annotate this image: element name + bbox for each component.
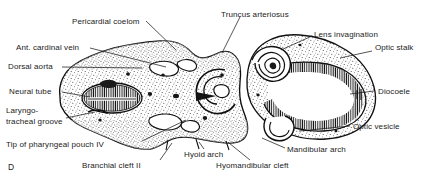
label-lens-invagination: Lens invagination: [314, 30, 378, 40]
optic-vesicle-structure: [264, 116, 294, 141]
label-optic-vesicle: Optic vesicle: [353, 122, 400, 132]
label-hyomandibular-cleft: Hyomandibular cleft: [216, 161, 289, 171]
label-tip-of-pharyngeal-pouch-iv: Tip of pharyngeal pouch IV: [6, 140, 104, 150]
label-hyoid-arch: Hyoid arch: [184, 150, 223, 160]
label-optic-stalk: Optic stalk: [375, 43, 413, 53]
label-dorsal-aorta: Dorsal aorta: [8, 62, 53, 72]
label-truncus-arteriosus: Truncus arteriosus: [221, 10, 289, 20]
label-mandibular-arch: Mandibular arch: [287, 145, 346, 155]
label-pericardial-coelom: Pericardial coelom: [72, 17, 140, 27]
label-ant-cardinal-vein: Ant. cardinal vein: [16, 43, 79, 53]
label-laryngotracheal-groove-line1: Laryngo-: [6, 106, 38, 116]
label-neural-tube: Neural tube: [9, 87, 51, 97]
label-diocoele: Diocoele: [378, 87, 410, 97]
label-laryngotracheal-groove-line2: tracheal groove: [6, 117, 63, 127]
label-branchial-cleft-ii: Branchial cleft II: [82, 161, 141, 171]
figure-panel: Pericardial coelom Truncus arteriosus Le…: [0, 0, 436, 178]
panel-identifier: D: [8, 162, 14, 172]
